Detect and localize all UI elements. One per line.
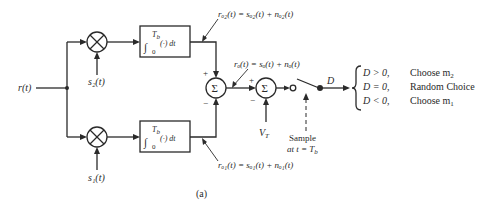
decision-rule: D < 0, Choose m1 <box>362 95 454 108</box>
lower-multiplier <box>87 127 107 147</box>
lower-integrator: ∫ Tb 0 (·) dt <box>140 121 190 152</box>
svg-text:Choose m1: Choose m1 <box>410 95 454 108</box>
s1-label: s₁(t) <box>88 172 105 184</box>
svg-text:0: 0 <box>152 143 156 151</box>
sample-label-line1: Sample <box>289 133 316 143</box>
threshold-label: VT <box>259 127 270 140</box>
arrowhead <box>213 71 219 78</box>
decision-variable-label: D <box>326 75 335 86</box>
decision-brace <box>352 66 361 110</box>
decision-rule: D = 0, Random Choice <box>362 81 475 92</box>
svg-text:Random Choice: Random Choice <box>410 81 475 92</box>
summer2-minus-sign: − <box>250 95 255 105</box>
arrowhead <box>263 98 269 105</box>
ro1-label: rₒ₁(t) = sₒ₁(t) + nₒ₁(t) <box>218 160 293 170</box>
arrowhead <box>249 85 256 91</box>
decision-rule: D > 0, Choose m2 <box>362 67 454 80</box>
summer2-plus-sign: + <box>249 75 254 85</box>
s2-label: s₂(t) <box>88 76 105 88</box>
arrowhead <box>94 52 100 59</box>
ro-label: rₒ(t) = sₒ(t) + nₒ(t) <box>234 59 300 69</box>
arrowhead <box>80 39 87 45</box>
figure-caption: (a) <box>196 188 207 200</box>
arrowhead <box>133 134 140 140</box>
arrowhead <box>303 93 309 100</box>
arrowhead <box>213 98 219 105</box>
sampler-switch <box>297 79 319 88</box>
switch-open-contact <box>290 85 296 91</box>
svg-text:Σ: Σ <box>212 82 218 94</box>
upper-multiplier <box>87 32 107 52</box>
svg-text:D > 0,: D > 0, <box>362 67 389 78</box>
arrowhead <box>133 39 140 45</box>
summer-1: Σ <box>206 78 226 98</box>
sample-label-line2: at t = Tb <box>287 144 318 156</box>
summer-2: Σ <box>256 78 276 98</box>
receiver-block-diagram: r(t) s₂(t) s₁(t) ∫ Tb 0 (·) dt ∫ Tb <box>0 0 491 218</box>
arrowhead <box>80 134 87 140</box>
svg-text:(·) dt: (·) dt <box>160 134 176 143</box>
svg-text:(·) dt: (·) dt <box>160 39 176 48</box>
svg-text:0: 0 <box>152 48 156 56</box>
input-label: r(t) <box>18 82 32 94</box>
arrowhead <box>94 147 100 154</box>
summer1-plus-sign: + <box>203 68 208 78</box>
svg-text:D = 0,: D = 0, <box>362 81 389 92</box>
svg-text:D < 0,: D < 0, <box>362 95 389 106</box>
upper-integrator: ∫ Tb 0 (·) dt <box>140 26 190 57</box>
svg-text:Choose m2: Choose m2 <box>410 67 454 80</box>
arrowhead <box>343 85 350 91</box>
svg-text:Σ: Σ <box>262 82 268 94</box>
arrowhead <box>284 86 290 91</box>
summer1-minus-sign: − <box>203 98 208 108</box>
ro2-label: rₒ₂(t) = sₒ₂(t) + nₒ₂(t) <box>218 9 293 19</box>
